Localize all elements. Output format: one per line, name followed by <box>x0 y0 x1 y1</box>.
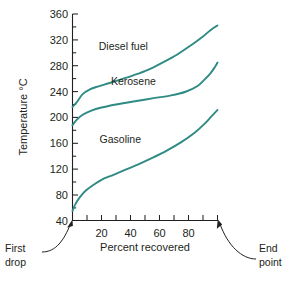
annotation-first-drop: First drop <box>5 220 73 269</box>
distillation-curve-chart: 360 320 280 240 200 160 120 80 40 20 <box>0 0 293 282</box>
y-tick-label: 160 <box>50 137 68 149</box>
x-tick-label: 60 <box>153 227 165 239</box>
series-label-gasoline: Gasoline <box>100 133 142 145</box>
chart-series-group <box>73 26 218 211</box>
x-axis-title: Percent recovered <box>100 241 190 253</box>
y-axis-major-ticks <box>73 14 79 221</box>
x-tick-label: 40 <box>124 227 136 239</box>
y-tick-label: 120 <box>50 163 68 175</box>
y-tick-label: 320 <box>50 34 68 46</box>
y-tick-label: 240 <box>50 86 68 98</box>
series-label-diesel-fuel: Diesel fuel <box>99 40 148 52</box>
x-tick-label: 20 <box>95 227 107 239</box>
first-drop-label-line2: drop <box>5 256 26 268</box>
end-point-leader-line <box>220 224 256 259</box>
y-tick-label: 280 <box>50 60 68 72</box>
y-tick-label: 200 <box>50 111 68 123</box>
y-axis-title: Temperature °C <box>17 78 29 155</box>
y-tick-label: 360 <box>50 8 68 20</box>
x-axis-ticks <box>73 215 218 221</box>
y-tick-label: 80 <box>56 189 68 201</box>
annotation-end-point: End point <box>217 220 282 269</box>
x-tick-label: 80 <box>182 227 194 239</box>
first-drop-leader-line <box>42 224 71 252</box>
end-point-label-line1: End <box>259 242 278 254</box>
first-drop-arrowhead <box>67 220 73 228</box>
first-drop-label-line1: First <box>5 242 25 254</box>
series-label-kerosene: Kerosene <box>111 75 156 87</box>
series-line-gasoline <box>73 110 218 211</box>
end-point-label-line2: point <box>259 256 282 268</box>
chart-svg: 360 320 280 240 200 160 120 80 40 20 <box>0 0 293 282</box>
series-line-diesel-fuel <box>73 26 218 107</box>
y-tick-label: 40 <box>56 215 68 227</box>
x-axis-tick-labels: 20 40 60 80 <box>95 227 194 239</box>
series-inline-labels: Diesel fuel Kerosene Gasoline <box>99 40 156 144</box>
y-axis-tick-labels: 360 320 280 240 200 160 120 80 40 <box>50 8 68 227</box>
